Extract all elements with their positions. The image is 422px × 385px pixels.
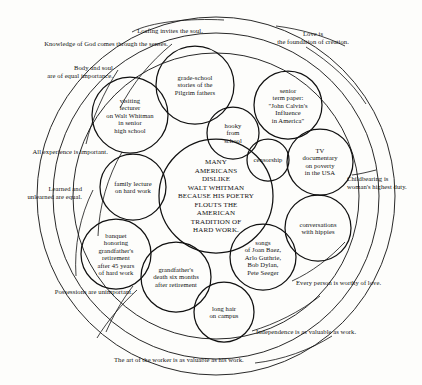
concept-bubble[interactable] <box>254 71 322 139</box>
leader-love <box>306 47 366 104</box>
leader-childbearing <box>352 170 376 175</box>
concept-bubble[interactable] <box>194 282 254 342</box>
concept-bubble[interactable] <box>287 129 353 195</box>
leader-love-top <box>276 26 345 46</box>
concept-bubble[interactable] <box>247 139 289 181</box>
leader-independence <box>252 296 320 331</box>
leader-experience <box>98 152 122 236</box>
leader-learned <box>76 190 93 276</box>
concept-bubble[interactable] <box>100 154 166 220</box>
concentric-rings <box>37 17 395 375</box>
outer-ring <box>37 17 395 375</box>
concept-bubble[interactable] <box>230 224 296 290</box>
concept-bubble[interactable] <box>92 77 168 153</box>
leader-art-worker <box>255 336 332 363</box>
diagram-canvas <box>0 0 422 385</box>
concept-bubble[interactable] <box>141 242 211 312</box>
diagram-page: grade-school stories of the Pilgrim fath… <box>0 0 422 385</box>
center-statement-bubble[interactable] <box>159 139 273 253</box>
inner-ring <box>73 53 359 339</box>
